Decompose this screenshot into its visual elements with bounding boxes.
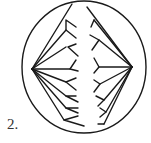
figure-number-label: 2. bbox=[7, 116, 18, 133]
mitosis-diagram bbox=[0, 0, 151, 143]
left-spindle bbox=[32, 4, 84, 126]
right-spindle bbox=[87, 7, 132, 124]
